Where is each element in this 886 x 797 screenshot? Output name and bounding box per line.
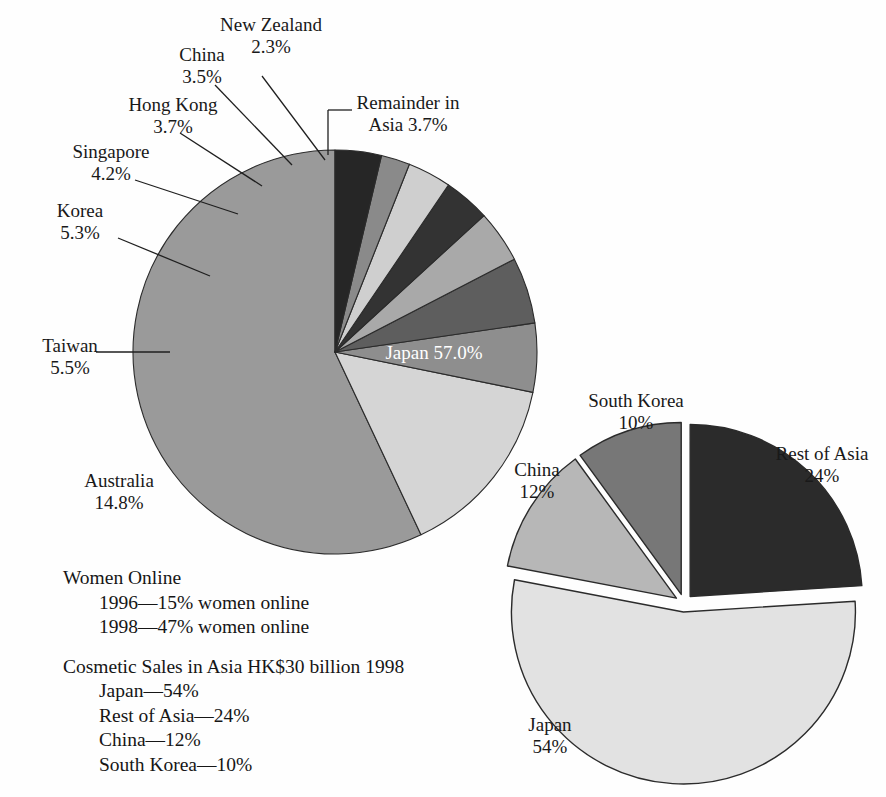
- pie1-label-china-name: China: [148, 44, 256, 66]
- pie1-label-hong-kong-name: Hong Kong: [105, 94, 241, 116]
- pie1-label-remainder-in-asia: Remainder in Asia 3.7%: [332, 92, 484, 136]
- pie1-label-taiwan: Taiwan 5.5%: [20, 335, 120, 379]
- pie2-label-rest-of-asia-name: Rest of Asia: [760, 443, 884, 465]
- pie1-label-japan: Japan 57.0%: [375, 342, 493, 364]
- pie1-label-china: China 3.5%: [148, 44, 256, 88]
- pie2-label-south-korea-name: South Korea: [562, 390, 710, 412]
- pie1-label-hong-kong-pct: 3.7%: [105, 116, 241, 138]
- pie1-label-china-pct: 3.5%: [148, 66, 256, 88]
- pie1-label-korea-name: Korea: [32, 200, 128, 222]
- pie1-label-hong-kong: Hong Kong 3.7%: [105, 94, 241, 138]
- pie2-label-south-korea: South Korea 10%: [562, 390, 710, 434]
- pie1-label-remainder-line1: Remainder in: [332, 92, 484, 114]
- pie1-leader-line: [262, 76, 325, 160]
- notes-text-block: Women Online 1996—15% women online 1998—…: [63, 566, 404, 778]
- pie2-label-rest-of-asia: Rest of Asia 24%: [760, 443, 884, 487]
- pie1-label-korea: Korea 5.3%: [32, 200, 128, 244]
- notes-cosmetic-rest-of-asia: Rest of Asia—24%: [99, 704, 404, 729]
- pie1-label-taiwan-pct: 5.5%: [20, 357, 120, 379]
- notes-cosmetic-south-korea: South Korea—10%: [99, 753, 404, 778]
- figure-canvas: New Zealand 2.3% China 3.5% Hong Kong 3.…: [0, 0, 886, 797]
- pie1-label-japan-name: Japan: [385, 342, 428, 363]
- pie1-label-singapore-pct: 4.2%: [49, 163, 173, 185]
- pie1-label-australia-name: Australia: [58, 470, 180, 492]
- pie2-label-china: China 12%: [495, 459, 579, 503]
- notes-cosmetic-heading: Cosmetic Sales in Asia HK$30 billion 199…: [63, 655, 404, 680]
- pie2-label-china-name: China: [495, 459, 579, 481]
- notes-women-online-heading: Women Online: [63, 566, 404, 591]
- pie1-label-australia: Australia 14.8%: [58, 470, 180, 514]
- notes-women-online-1996: 1996—15% women online: [99, 591, 404, 616]
- pie1-label-australia-pct: 14.8%: [58, 492, 180, 514]
- notes-spacer: [63, 640, 404, 655]
- pie2-label-japan-pct: 54%: [512, 736, 588, 758]
- pie2-label-japan: Japan 54%: [512, 714, 588, 758]
- pie1-label-taiwan-name: Taiwan: [20, 335, 120, 357]
- pie1-label-remainder-line2: Asia 3.7%: [332, 114, 484, 136]
- pie1-label-korea-pct: 5.3%: [32, 222, 128, 244]
- notes-cosmetic-china: China—12%: [99, 728, 404, 753]
- pie2-label-japan-name: Japan: [512, 714, 588, 736]
- pie1-label-japan-pct: 57.0%: [433, 342, 482, 363]
- pie2-label-china-pct: 12%: [495, 481, 579, 503]
- pie2-label-south-korea-pct: 10%: [562, 412, 710, 434]
- pie1-leader-line: [180, 133, 262, 186]
- pie1-label-new-zealand-name: New Zealand: [196, 14, 346, 36]
- pie2-label-rest-of-asia-pct: 24%: [760, 465, 884, 487]
- pie1-label-singapore-name: Singapore: [49, 141, 173, 163]
- notes-cosmetic-japan: Japan—54%: [99, 679, 404, 704]
- pie1-label-singapore: Singapore 4.2%: [49, 141, 173, 185]
- notes-women-online-1998: 1998—47% women online: [99, 615, 404, 640]
